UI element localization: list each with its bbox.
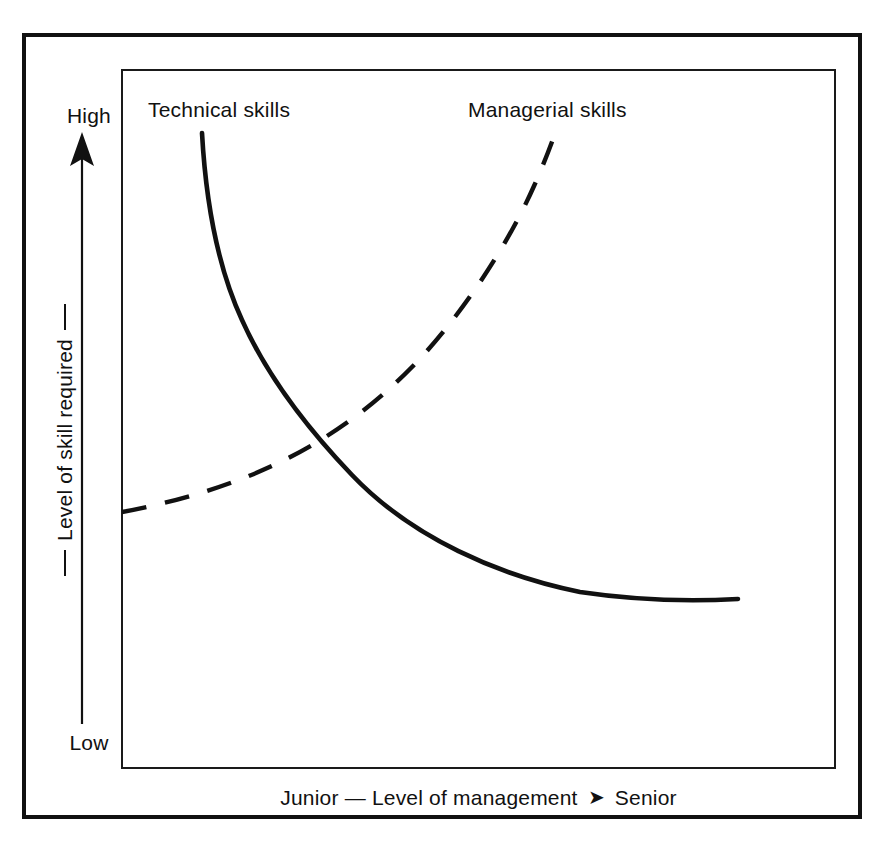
x-axis-caption-right: Senior xyxy=(615,786,677,810)
series-label-managerial: Managerial skills xyxy=(468,98,627,122)
plot-area-border xyxy=(121,69,836,769)
scan-artifact xyxy=(128,0,248,10)
figure-canvas: High Low Level of skill required Technic… xyxy=(0,0,881,848)
right-arrow-icon: ➤ xyxy=(588,787,605,807)
x-axis-caption: Junior — Level of management ➤ Senior xyxy=(121,786,836,810)
y-axis-low-label: Low xyxy=(54,731,124,755)
y-axis-high-label: High xyxy=(54,104,124,128)
y-axis-arrow xyxy=(58,128,106,728)
x-axis-caption-left: Junior — Level of management xyxy=(280,786,577,810)
series-label-technical: Technical skills xyxy=(148,98,290,122)
